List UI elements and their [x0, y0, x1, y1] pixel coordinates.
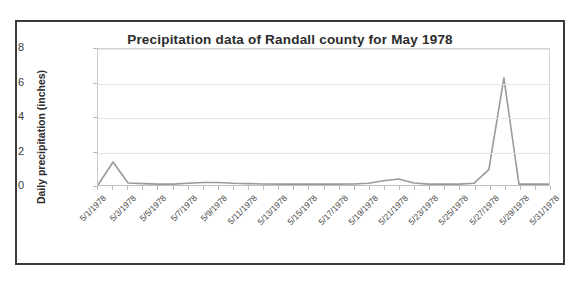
x-axis-tick-mark: [218, 186, 219, 190]
gridline: [98, 84, 549, 85]
plot-area: [97, 48, 550, 186]
x-axis-tick-mark: [157, 186, 158, 190]
x-axis-tick-mark: [233, 186, 234, 190]
y-axis-tick-label: 8: [0, 41, 24, 53]
x-axis-tick-mark: [550, 186, 551, 190]
chart-figure: Precipitation data of Randall county for…: [15, 20, 565, 265]
y-axis-tick-mark: [93, 152, 97, 153]
y-axis-tick-label: 4: [0, 110, 24, 122]
x-axis-tick-mark: [263, 186, 264, 190]
x-axis-tick-mark: [429, 186, 430, 190]
y-axis-tick-label: 6: [0, 76, 24, 88]
x-axis-tick-mark: [112, 186, 113, 190]
x-axis-tick-mark: [475, 186, 476, 190]
x-axis-tick-mark: [414, 186, 415, 190]
y-axis-title: Daily precipitation (inches): [35, 62, 49, 212]
y-axis-tick-mark: [93, 48, 97, 49]
x-axis-tick-mark: [444, 186, 445, 190]
x-axis-tick-mark: [535, 186, 536, 190]
x-axis-tick-mark: [203, 186, 204, 190]
x-axis-tick-mark: [459, 186, 460, 190]
x-axis-tick-mark: [354, 186, 355, 190]
x-axis-tick-mark: [399, 186, 400, 190]
x-axis-tick-mark: [308, 186, 309, 190]
x-axis-tick-mark: [520, 186, 521, 190]
y-axis-tick-label: 2: [0, 145, 24, 157]
y-axis-tick-label: 0: [0, 179, 24, 191]
x-axis-tick-mark: [173, 186, 174, 190]
x-axis-tick-mark: [293, 186, 294, 190]
x-axis-tick-mark: [324, 186, 325, 190]
x-axis-tick-mark: [142, 186, 143, 190]
x-axis-tick-mark: [490, 186, 491, 190]
precipitation-line-series: [98, 49, 549, 185]
y-axis-tick-mark: [93, 117, 97, 118]
chart-title: Precipitation data of Randall county for…: [17, 32, 563, 47]
x-axis-tick-mark: [97, 186, 98, 190]
x-axis-tick-mark: [505, 186, 506, 190]
gridline: [98, 118, 549, 119]
x-axis-tick-mark: [384, 186, 385, 190]
x-axis-tick-mark: [248, 186, 249, 190]
gridline: [98, 49, 549, 50]
gridline: [98, 153, 549, 154]
x-axis-tick-mark: [278, 186, 279, 190]
x-axis-tick-mark: [339, 186, 340, 190]
x-axis-tick-mark: [188, 186, 189, 190]
x-axis-tick-mark: [369, 186, 370, 190]
x-axis-tick-mark: [127, 186, 128, 190]
y-axis-tick-mark: [93, 83, 97, 84]
